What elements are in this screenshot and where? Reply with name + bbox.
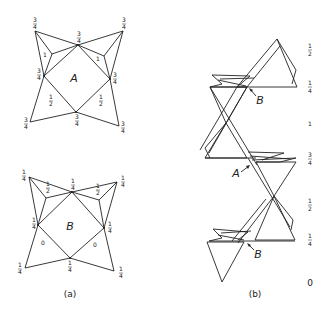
height-label-den: 4 — [308, 240, 312, 247]
vertex-height-den: 4 — [22, 175, 26, 182]
vertex-height-den: 4 — [32, 223, 36, 230]
vertex-height-num: 3 — [75, 113, 79, 120]
vertex-height-num: 3 — [33, 16, 37, 23]
height-label-den: 2 — [308, 205, 312, 212]
vertex-height-num: 1 — [121, 174, 125, 181]
face-height-label: 0 — [93, 241, 97, 248]
vertex-height-num: 1 — [68, 259, 72, 266]
height-label: 1 — [308, 120, 312, 127]
panel-b-caption: (b) — [249, 289, 262, 299]
pointer-label-a: A — [231, 167, 240, 180]
pointer-label-b-lower: B — [254, 248, 262, 261]
vertex-height-den: 4 — [75, 120, 79, 127]
vertex-height-num: 1 — [71, 177, 75, 184]
vertex-height-num: 1 — [108, 220, 112, 227]
face-height-num: 1 — [46, 180, 50, 187]
vertex-height-num: 3 — [122, 16, 126, 23]
vertex-height-den: 4 — [121, 181, 125, 188]
face-height-num: 1 — [99, 93, 103, 100]
face-height-num: 1 — [49, 93, 53, 100]
vertex-height-den: 4 — [77, 37, 81, 44]
vertex-height-num: 3 — [24, 116, 28, 123]
vertex-height-num: 1 — [22, 168, 26, 175]
face-height-den: 2 — [46, 187, 50, 194]
vertex-height-num: 3 — [77, 30, 81, 37]
layer-b-label: B — [66, 220, 74, 233]
vertex-height-den: 4 — [119, 272, 123, 279]
vertex-height-den: 4 — [121, 127, 125, 134]
face-height-num: 1 — [96, 182, 100, 189]
height-label-num: 3 — [308, 151, 312, 158]
vertex-height-num: 1 — [18, 261, 22, 268]
crystal-structure-figure: 3 4 3 4 3 4 3 4 3 4 3 4 3 4 3 4 1 1 1 — [0, 0, 322, 311]
vertex-height-num: 3 — [113, 71, 117, 78]
vertex-height-num: 1 — [32, 216, 36, 223]
vertex-height-num: 3 — [121, 120, 125, 127]
vertex-height-den: 4 — [108, 227, 112, 234]
vertex-height-den: 4 — [33, 23, 37, 30]
layer-b-labels: 1 4 1 4 1 4 1 4 1 4 1 4 1 4 1 4 1 2 1 — [18, 168, 125, 279]
vertex-height-den: 4 — [122, 23, 126, 30]
face-height-label: 1 — [43, 51, 47, 58]
height-label-num: 1 — [308, 197, 312, 204]
face-height-label: 0 — [41, 239, 45, 246]
face-height-den: 2 — [49, 100, 53, 107]
vertex-height-den: 4 — [71, 184, 75, 191]
vertex-height-den: 4 — [24, 123, 28, 130]
panel-a-caption: (a) — [64, 289, 77, 299]
vertex-height-den: 4 — [18, 268, 22, 275]
vertex-height-den: 4 — [37, 74, 41, 81]
vertex-height-den: 4 — [68, 266, 72, 273]
vertex-height-num: 3 — [37, 67, 41, 74]
height-label-num: 1 — [308, 79, 312, 86]
height-label-num: 1 — [308, 42, 312, 49]
face-height-den: 2 — [99, 100, 103, 107]
face-height-label: 1 — [96, 55, 100, 62]
vertex-height-den: 4 — [113, 78, 117, 85]
height-label-num: 1 — [308, 232, 312, 239]
vertex-height-num: 1 — [119, 265, 123, 272]
face-height-den: 2 — [96, 189, 100, 196]
height-label: 0 — [307, 278, 313, 288]
height-label-den: 2 — [308, 50, 312, 57]
pointer-label-b-upper: B — [256, 94, 264, 107]
layer-a-label: A — [69, 72, 78, 85]
height-label-den: 4 — [308, 87, 312, 94]
height-label-den: 4 — [308, 159, 312, 166]
